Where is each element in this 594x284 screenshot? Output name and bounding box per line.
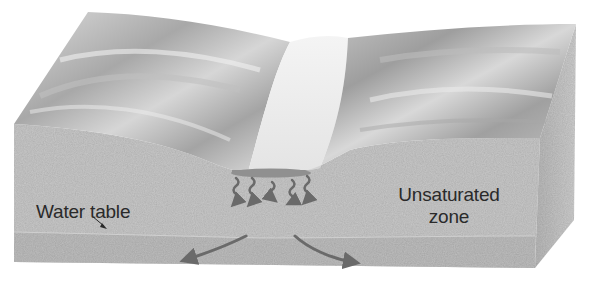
diagram-canvas [0, 0, 594, 284]
groundwater-diagram: Water table Unsaturated zone [0, 0, 594, 284]
water-table-label: Water table [36, 201, 130, 223]
unsaturated-zone-label-line1: Unsaturated [386, 184, 512, 206]
unsaturated-zone-label-line2: zone [386, 206, 512, 228]
stream-surface [231, 169, 311, 178]
unsaturated-zone-label: Unsaturated zone [386, 184, 512, 228]
